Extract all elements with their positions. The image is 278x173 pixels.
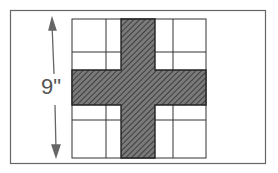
dimension-label: 9" [40, 76, 62, 98]
quilt-block [72, 19, 206, 158]
